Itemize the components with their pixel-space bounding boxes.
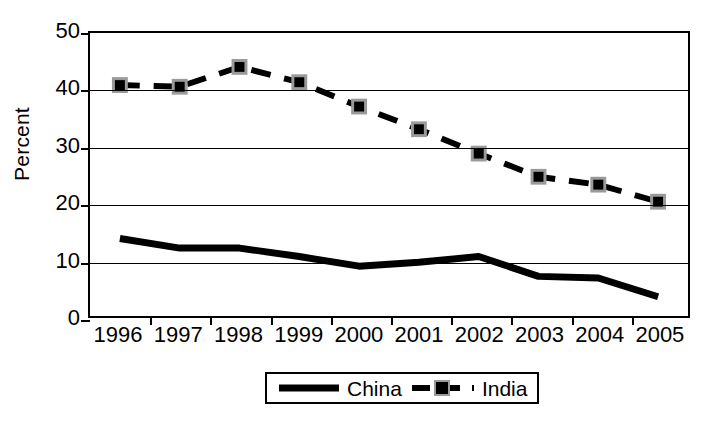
data-point-marker-india xyxy=(293,76,306,89)
data-point-marker-india xyxy=(353,100,366,113)
series-line-india xyxy=(120,67,658,202)
x-axis-tick-label: 2002 xyxy=(455,322,504,348)
data-point-marker-india xyxy=(472,147,485,160)
y-axis-tick-label: 10 xyxy=(36,250,80,272)
y-axis-tick-label: 40 xyxy=(36,77,80,99)
data-point-marker-india xyxy=(532,170,545,183)
data-point-marker-india xyxy=(412,123,425,136)
plot-area xyxy=(88,31,690,318)
y-axis-tick-label: 0 xyxy=(36,307,80,329)
y-axis-tick-label: 50 xyxy=(36,20,80,42)
gridline xyxy=(90,205,688,206)
legend-line-swatch-china xyxy=(277,378,341,398)
data-point-marker-india xyxy=(592,178,605,191)
y-axis-tick-label: 30 xyxy=(36,135,80,157)
series-layer xyxy=(90,33,688,316)
legend-entry-china: China xyxy=(277,378,402,399)
gridline xyxy=(90,90,688,91)
y-axis-tick xyxy=(81,148,90,150)
x-axis-tick-label: 1999 xyxy=(274,322,323,348)
y-axis-tick-label: 20 xyxy=(36,192,80,214)
y-axis-tick xyxy=(81,263,90,265)
x-axis-tick-label: 2001 xyxy=(395,322,444,348)
y-axis-tick xyxy=(81,205,90,207)
y-axis-tick-labels: 01020304050 xyxy=(30,0,80,428)
x-axis-tick-label: 2003 xyxy=(515,322,564,348)
x-axis-tick-labels: 1996199719981999200020012002200320042005 xyxy=(88,322,690,352)
series-line-china xyxy=(120,238,658,296)
legend-label-india: India xyxy=(482,378,528,399)
x-axis-tick-label: 2000 xyxy=(334,322,383,348)
x-axis-tick-label: 1997 xyxy=(154,322,203,348)
line-chart: Percent 01020304050 19961997199819992000… xyxy=(0,0,712,428)
legend-entry-india: India xyxy=(410,377,528,399)
legend-line-swatch-india xyxy=(410,377,476,399)
data-point-marker-india xyxy=(652,195,665,208)
x-axis-tick-label: 1998 xyxy=(214,322,263,348)
x-axis-tick-label: 2004 xyxy=(575,322,624,348)
legend-label-china: China xyxy=(347,378,402,399)
x-axis-tick-label: 1996 xyxy=(94,322,143,348)
chart-legend: China India xyxy=(265,372,539,404)
gridline xyxy=(90,263,688,264)
y-axis-tick xyxy=(81,90,90,92)
gridline xyxy=(90,148,688,149)
x-axis-tick-label: 2005 xyxy=(635,322,684,348)
data-point-marker-india xyxy=(233,61,246,74)
y-axis-tick xyxy=(81,33,90,35)
